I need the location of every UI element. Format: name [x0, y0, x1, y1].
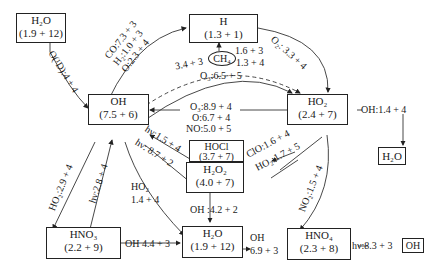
node-oh: OH (7.5 + 6): [88, 94, 149, 125]
edge-label-oh-loss: OH:1.4 + 4: [361, 104, 406, 115]
species-label: H: [190, 15, 257, 28]
edge-label-no: NO:5.0 + 5: [186, 123, 231, 134]
species-value: (7.5 + 6): [89, 108, 148, 121]
edge-label-h2o2-oh: OH :4.2 + 2: [190, 204, 238, 215]
species-value: (2.4 + 7): [288, 108, 347, 121]
species-value: (3.7 + 7): [190, 152, 243, 162]
species-value: (1.9 + 12): [183, 240, 242, 253]
edge-label-ch4-2: 1.3 + 4: [236, 57, 264, 68]
node-ch4: CH₄: [208, 51, 236, 66]
species-label: HO₂: [288, 95, 347, 108]
edge-label-o3-oh-ho2: O₃:6.5 + 5: [200, 70, 242, 81]
species-value: (1.9 + 12): [17, 27, 65, 40]
species-label: OH: [89, 95, 148, 108]
edge-label-hno4-oh: OH: [250, 232, 264, 243]
node-hno3: HNO₃ (2.2 + 9): [46, 227, 121, 259]
node-ho2: HO₂ (2.4 + 7): [287, 94, 348, 125]
species-label: H₂O: [183, 227, 242, 240]
species-label: OH: [403, 239, 423, 252]
node-h2o-bottom: H₂O (1.9 + 12): [182, 226, 243, 258]
species-value: (2.3 + 8): [288, 242, 350, 255]
species-label: HNO₄: [288, 229, 350, 242]
node-h2o2: H₂O₂ (4.0 + 7): [186, 162, 244, 193]
species-label: HNO₃: [47, 228, 120, 241]
edge-label-hno4-photo: hν:8.3 + 3: [352, 240, 392, 251]
edge-label-oh-ho2: HO₂: [131, 181, 149, 192]
edge-label-o3-ho2-oh: O₃:8.9 + 4: [190, 101, 232, 112]
species-label: H₂O: [379, 148, 405, 164]
node-oh-small: OH: [402, 238, 424, 253]
node-hno4: HNO₄ (2.3 + 8): [287, 228, 351, 260]
species-value: (4.0 + 7): [187, 176, 243, 189]
species-value: (1.3 + 1): [190, 28, 257, 41]
node-hocl: HOCl (3.7 + 7): [189, 140, 244, 162]
edge-label-o-ho2-oh: O:6.7 + 4: [192, 112, 230, 123]
species-label: H₂O: [17, 14, 65, 27]
node-h2o-right: H₂O: [378, 147, 406, 165]
edge-label-ch4-1: 1.6 + 3: [235, 45, 263, 56]
edge-label-hno4-oh-value: 6.9 + 3: [250, 245, 278, 256]
species-label: H₂O₂: [187, 163, 243, 176]
node-h: H (1.3 + 1): [189, 14, 258, 43]
node-h2o-top: H₂O (1.9 + 12): [16, 13, 66, 43]
edge-label-oh-ho2-value: 1.4 + 4: [131, 194, 159, 205]
species-value: (2.2 + 9): [47, 241, 120, 254]
edge-label-hno3-oh: OH 4.4 + 3: [125, 238, 170, 249]
